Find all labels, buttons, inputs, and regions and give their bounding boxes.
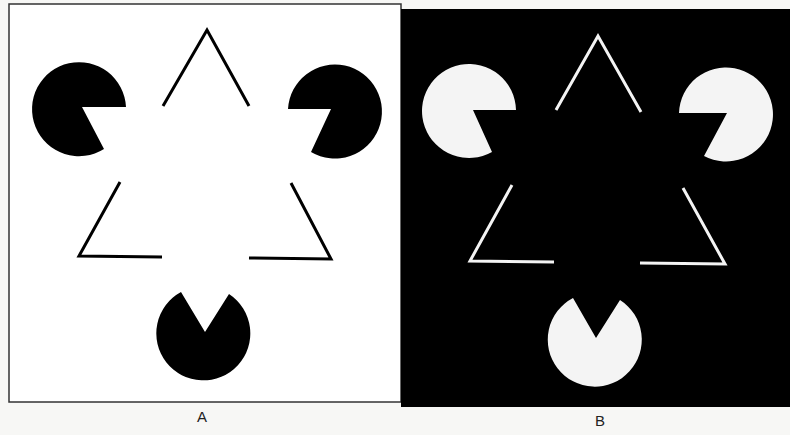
panel-b	[401, 9, 790, 407]
panel-b-label: B	[595, 412, 605, 429]
kanizsa-figure: A B	[0, 0, 790, 435]
panel-a-label: A	[197, 408, 207, 425]
figure-canvas	[0, 0, 790, 435]
panel-a	[9, 4, 401, 402]
